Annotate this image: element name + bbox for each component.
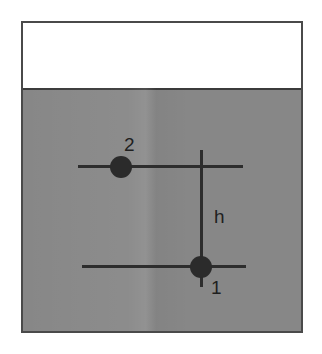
point-2-marker [110, 156, 132, 178]
streamline-lower [82, 265, 246, 268]
point-1-marker [190, 256, 212, 278]
figure-root: 2 1 h [0, 0, 322, 354]
annotation-overlay: 2 1 h [0, 0, 322, 354]
point-2-label: 2 [124, 135, 135, 154]
point-1-label: 1 [211, 278, 222, 297]
streamline-upper [78, 165, 243, 168]
height-h-label: h [214, 207, 225, 226]
